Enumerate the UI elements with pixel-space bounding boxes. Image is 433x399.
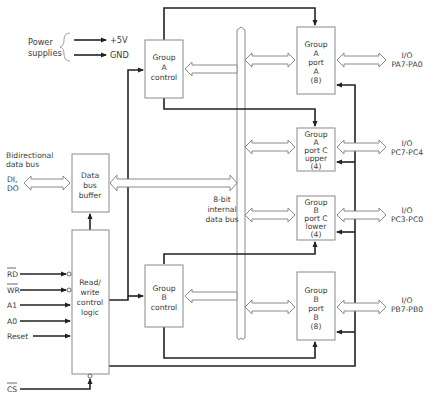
port-c-lower-block: Group B port C lower (4) — [297, 196, 335, 240]
svg-text:B: B — [313, 295, 318, 304]
svg-text:A: A — [313, 67, 319, 76]
block-diagram: Power supplies +5V GND — [0, 0, 433, 399]
svg-text:Group: Group — [152, 53, 175, 62]
a0-label: A0 — [7, 317, 17, 326]
power-supplies: Power supplies +5V GND — [28, 33, 129, 61]
group-b-control-block: Group B control — [145, 265, 183, 327]
reset-label: Reset — [7, 332, 28, 341]
svg-text:bus: bus — [83, 181, 97, 190]
svg-text:Data: Data — [81, 171, 99, 180]
svg-text:Group: Group — [304, 40, 327, 49]
io-pcu-line1: I/O — [402, 139, 413, 148]
io-pcu-line2: PC7-PC4 — [391, 148, 423, 157]
svg-text:Group: Group — [152, 284, 175, 293]
svg-text:port: port — [308, 58, 324, 67]
svg-text:DI,: DI, — [7, 175, 18, 184]
svg-text:(8): (8) — [311, 76, 322, 85]
svg-text:control: control — [77, 298, 103, 307]
a1-label: A1 — [7, 301, 17, 310]
data-bus-buffer-block: Data bus buffer — [72, 154, 109, 212]
port-b-block: Group B port B (8) — [297, 272, 335, 340]
svg-text:DO: DO — [7, 184, 19, 193]
gnd-label: GND — [110, 50, 129, 60]
svg-text:B: B — [161, 293, 166, 302]
rd-label: RD — [7, 270, 18, 279]
svg-text:Group: Group — [304, 286, 327, 295]
io-pcl-line1: I/O — [402, 206, 413, 215]
inversion-bubble-icon — [67, 272, 71, 276]
svg-text:Read/: Read/ — [79, 278, 101, 287]
svg-text:control: control — [151, 73, 177, 82]
svg-text:(4): (4) — [311, 230, 322, 239]
power-label-line1: Power — [28, 37, 53, 47]
svg-text:Bidirectional: Bidirectional — [6, 151, 53, 160]
power-label-line2: supplies — [28, 48, 62, 58]
svg-text:data bus: data bus — [6, 160, 39, 169]
svg-text:write: write — [80, 288, 99, 297]
read-write-control-logic-block: Read/ write control logic — [72, 230, 109, 374]
inversion-bubble-icon — [67, 288, 71, 292]
internal-bus-labels: 8-bit internal data bus — [205, 195, 238, 224]
io-pb-line1: I/O — [402, 296, 413, 305]
vcc-label: +5V — [110, 35, 128, 45]
group-a-control-block: Group A control — [145, 40, 183, 98]
wr-label: WR — [7, 286, 21, 295]
svg-text:A: A — [161, 63, 167, 72]
port-a-block: Group A port A (8) — [297, 27, 335, 94]
io-pcl-line2: PC3-PC0 — [391, 215, 423, 224]
io-pa-line2: PA7-PA0 — [392, 60, 423, 69]
svg-text:logic: logic — [81, 308, 99, 317]
svg-text:(4): (4) — [311, 162, 322, 171]
inversion-bubble-icon — [88, 374, 92, 378]
svg-text:(8): (8) — [311, 322, 322, 331]
io-port-labels: I/O PA7-PA0 I/O PC7-PC4 I/O PC3-PC0 I/O … — [391, 51, 423, 314]
svg-text:data bus: data bus — [205, 215, 238, 224]
io-pb-line2: PB7-PB0 — [391, 305, 423, 314]
svg-text:buffer: buffer — [79, 191, 103, 200]
svg-text:A: A — [313, 49, 319, 58]
svg-text:8-bit: 8-bit — [213, 195, 231, 204]
svg-text:internal: internal — [207, 205, 236, 214]
cs-label: CS — [7, 385, 17, 394]
internal-data-bus — [237, 27, 245, 340]
svg-text:B: B — [313, 313, 318, 322]
svg-text:control: control — [151, 303, 177, 312]
svg-text:port: port — [308, 304, 324, 313]
port-c-upper-block: Group A port C upper (4) — [297, 128, 335, 171]
io-pa-line1: I/O — [402, 51, 413, 60]
